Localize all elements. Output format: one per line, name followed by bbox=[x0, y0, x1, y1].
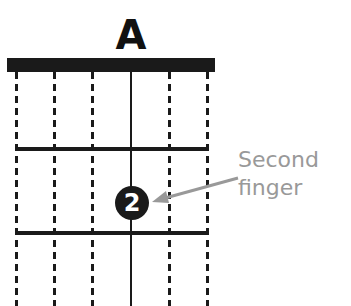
annotation-label: Second finger bbox=[238, 146, 319, 202]
annotation-line-2: finger bbox=[238, 174, 319, 202]
annotation-line-1: Second bbox=[238, 146, 319, 174]
